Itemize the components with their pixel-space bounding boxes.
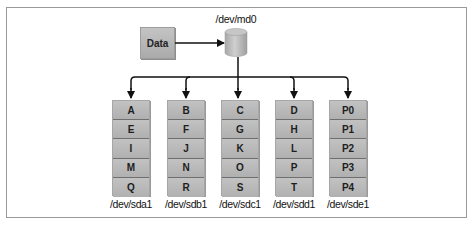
disk-column-sda1: A E I M Q bbox=[112, 100, 150, 196]
disk-column-sdb1: B F J N R bbox=[167, 100, 205, 196]
parity-block: P1 bbox=[330, 120, 366, 139]
stripe-block: E bbox=[113, 120, 149, 139]
stripe-block: N bbox=[168, 159, 204, 178]
disk-label: /dev/sda1 bbox=[101, 198, 161, 210]
parity-block: P3 bbox=[330, 159, 366, 178]
stripe-block: Q bbox=[113, 178, 149, 197]
disk-label: /dev/sdb1 bbox=[156, 198, 216, 210]
disk-column-sdc1: C G K O S bbox=[221, 100, 259, 196]
stripe-block: P bbox=[276, 159, 312, 178]
stripe-block: H bbox=[276, 120, 312, 139]
stripe-block: K bbox=[222, 139, 258, 158]
stripe-block: I bbox=[113, 139, 149, 158]
stripe-block: O bbox=[222, 159, 258, 178]
parity-block: P2 bbox=[330, 139, 366, 158]
stripe-block: T bbox=[276, 178, 312, 197]
disk-column-sdd1: D H L P T bbox=[275, 100, 313, 196]
stripe-block: G bbox=[222, 120, 258, 139]
stripe-block: S bbox=[222, 178, 258, 197]
disk-label: /dev/sdd1 bbox=[264, 198, 324, 210]
disk-label: /dev/sdc1 bbox=[210, 198, 270, 210]
parity-block: P4 bbox=[330, 178, 366, 197]
disk-label: /dev/sde1 bbox=[318, 198, 378, 210]
stripe-block: L bbox=[276, 139, 312, 158]
stripe-block: J bbox=[168, 139, 204, 158]
stripe-block: M bbox=[113, 159, 149, 178]
stripe-block: B bbox=[168, 101, 204, 120]
stripe-block: C bbox=[222, 101, 258, 120]
disk-column-sde1-parity: P0 P1 P2 P3 P4 bbox=[329, 100, 367, 196]
stripe-block: R bbox=[168, 178, 204, 197]
stripe-block: F bbox=[168, 120, 204, 139]
stripe-block: A bbox=[113, 101, 149, 120]
parity-block: P0 bbox=[330, 101, 366, 120]
stripe-block: D bbox=[276, 101, 312, 120]
array-cylinder-icon bbox=[225, 29, 247, 57]
